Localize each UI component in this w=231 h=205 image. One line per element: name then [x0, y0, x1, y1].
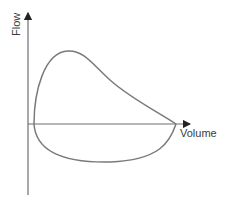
expiratory-limb: [34, 51, 176, 124]
flow-axis-label: Flow: [10, 13, 22, 36]
volume-axis-label: Volume: [180, 127, 217, 139]
flow-volume-diagram: Flow Volume: [0, 0, 231, 205]
inspiratory-limb: [34, 124, 176, 162]
